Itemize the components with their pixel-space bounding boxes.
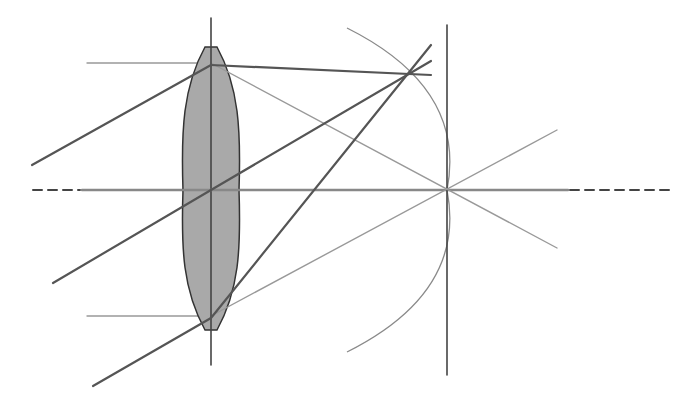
lower-oblique-ray-refracted bbox=[211, 45, 431, 318]
upper-parallel-ray-refracted bbox=[211, 63, 557, 248]
lower-oblique-ray-incident bbox=[93, 318, 211, 386]
upper-oblique-ray-refracted bbox=[211, 65, 431, 75]
lens-ray-diagram bbox=[0, 0, 697, 402]
lower-parallel-ray-refracted bbox=[211, 130, 557, 316]
